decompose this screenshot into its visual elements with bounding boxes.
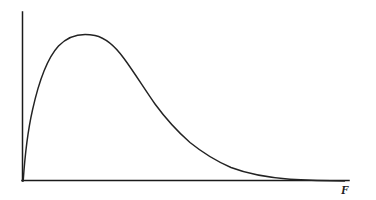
data-series-group	[23, 34, 344, 181]
plot-canvas	[0, 0, 376, 200]
distribution-curve	[23, 34, 344, 181]
x-axis-label: F	[341, 184, 349, 196]
figure-container: F	[0, 0, 376, 200]
